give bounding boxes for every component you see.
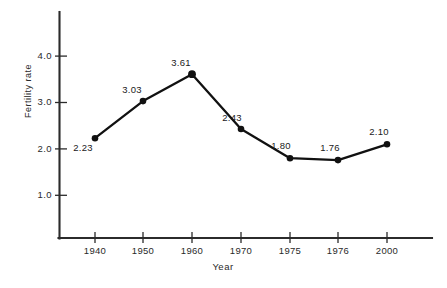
data-point-1940 — [92, 135, 99, 142]
data-point-1960 — [188, 70, 196, 78]
data-label-1976: 1.76 — [310, 142, 350, 153]
x-tick-label-2000: 2000 — [367, 245, 407, 256]
data-label-1970: 2.43 — [212, 112, 252, 123]
x-axis-title: Year — [183, 261, 263, 272]
data-point-1976 — [335, 157, 342, 164]
y-tick-label-1: 1.0 — [18, 189, 52, 200]
y-tick-label-2: 2.0 — [18, 143, 52, 154]
data-point-2000 — [384, 141, 391, 148]
data-point-1975 — [287, 155, 294, 162]
data-label-1940: 2.23 — [63, 142, 103, 153]
data-point-1970 — [238, 126, 245, 133]
x-tick-label-1950: 1950 — [123, 245, 163, 256]
data-point-1950 — [140, 98, 147, 105]
x-tick-label-1976: 1976 — [318, 245, 358, 256]
x-tick-label-1970: 1970 — [221, 245, 261, 256]
x-tick-label-1960: 1960 — [172, 245, 212, 256]
x-tick-label-1940: 1940 — [75, 245, 115, 256]
chart-figure: 4.0 3.0 2.0 1.0 1940 1950 1960 1970 1975… — [0, 0, 447, 288]
y-tick-marks — [55, 56, 67, 195]
x-tick-label-1975: 1975 — [270, 245, 310, 256]
data-label-1960: 3.61 — [161, 57, 201, 68]
data-label-1975: 1.80 — [261, 140, 301, 151]
y-axis-title: Fertility rate — [23, 51, 33, 131]
data-label-1950: 3.03 — [112, 84, 152, 95]
data-label-2000: 2.10 — [359, 126, 399, 137]
